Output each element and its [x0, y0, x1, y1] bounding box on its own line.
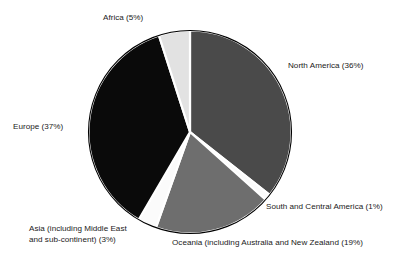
slice-label-north-america: North America (36%) — [288, 61, 364, 72]
pie-chart-figure: Africa (5%) North America (36%) Europe (… — [0, 0, 415, 266]
slice-label-south-and-central-america: South and Central America (1%) — [266, 202, 383, 213]
slice-label-asia: Asia (including Middle Eastand sub-conti… — [29, 224, 127, 245]
slice-label-oceania: Oceania (including Australia and New Zea… — [172, 238, 363, 249]
pie-slices-group — [88, 31, 291, 234]
slice-label-africa: Africa (5%) — [103, 13, 143, 24]
slice-label-europe: Europe (37%) — [13, 122, 63, 133]
slice-label-asia-line1: Asia (including Middle East — [29, 224, 127, 233]
slice-label-asia-line2: and sub-continent) (3%) — [29, 235, 116, 244]
